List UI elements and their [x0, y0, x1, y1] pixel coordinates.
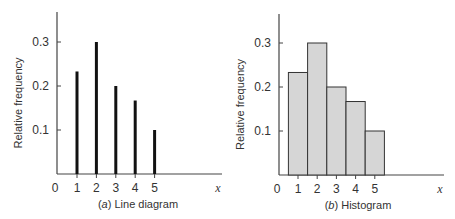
x-tick-label: 3 [333, 182, 340, 196]
histogram-bar [327, 87, 346, 175]
chart-caption: (b) Histogram [325, 199, 392, 211]
x-tick-label: 3 [112, 181, 119, 195]
x-tick-label: 5 [151, 181, 158, 195]
x-axis-label: x [436, 182, 443, 196]
y-axis-label: Relative frequency [12, 57, 24, 149]
x-tick-label: 4 [132, 181, 139, 195]
chart-caption: (a) Line diagram [98, 198, 178, 210]
histogram-bar [308, 43, 327, 175]
histogram-bar [346, 102, 365, 175]
histogram-bar [288, 72, 307, 175]
y-tick-label: 0.2 [32, 79, 49, 93]
x-tick-label: 5 [371, 182, 378, 196]
y-tick-label: 0.1 [32, 123, 49, 137]
x-tick-label: 0 [274, 182, 281, 196]
y-tick-label: 0.3 [32, 35, 49, 49]
charts-canvas: 0.10.20.3Relative frequency012345x(a) Li… [0, 0, 455, 219]
y-tick-label: 0.1 [254, 124, 271, 138]
y-axis-label: Relative frequency [234, 58, 246, 150]
x-tick-label: 1 [295, 182, 302, 196]
x-tick-label: 1 [74, 181, 81, 195]
x-tick-label: 2 [314, 182, 321, 196]
x-tick-label: 0 [52, 181, 59, 195]
y-tick-label: 0.2 [254, 80, 271, 94]
x-axis-label: x [214, 181, 221, 195]
x-tick-label: 4 [352, 182, 359, 196]
y-tick-label: 0.3 [254, 36, 271, 50]
histogram-bar [365, 131, 384, 175]
x-tick-label: 2 [93, 181, 100, 195]
